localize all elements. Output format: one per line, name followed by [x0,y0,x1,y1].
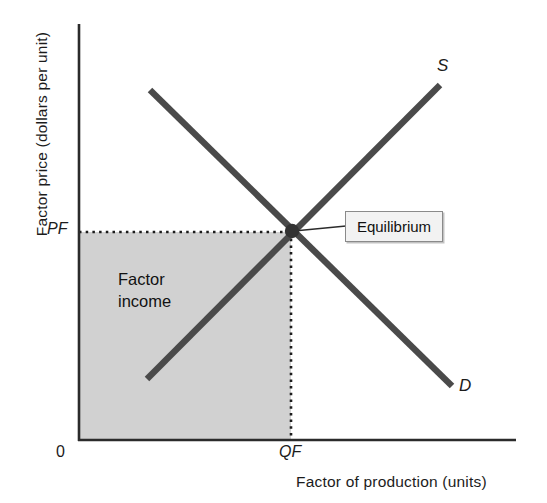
factor-market-diagram: Factor price (dollars per unit) Factor o… [0,0,547,503]
demand-curve-label: D [459,376,471,396]
factor-income-label-line1: Factor [118,268,228,290]
pf-tick-label: PF [47,220,67,238]
equilibrium-callout-label: Equilibrium [357,218,431,235]
x-axis-title: Factor of production (units) [296,473,487,491]
y-axis-title: Factor price (dollars per unit) [33,14,51,254]
qf-tick-label: QF [279,443,301,461]
origin-label: 0 [56,443,65,461]
factor-income-label-line2: income [118,290,228,312]
equilibrium-point-marker [285,224,299,238]
equilibrium-callout-box: Equilibrium [345,211,443,242]
supply-curve-label: S [437,56,448,76]
factor-income-label: Factor income [118,268,228,313]
supply-demand-plot [0,0,547,503]
